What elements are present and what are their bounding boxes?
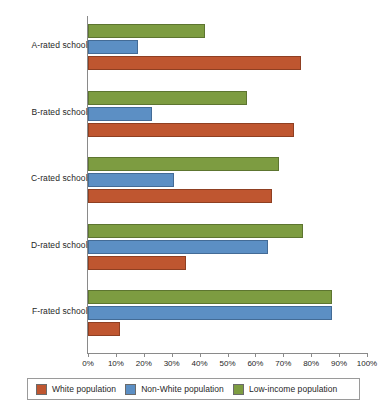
x-tick-mark xyxy=(283,353,284,357)
category-label-a: A-rated schools xyxy=(4,40,92,50)
category-label-f: F-rated schools xyxy=(4,306,92,316)
legend-item: Low-income population xyxy=(233,384,337,395)
bar-red xyxy=(88,189,272,203)
x-tick-mark xyxy=(255,353,256,357)
x-tick-mark xyxy=(172,353,173,357)
legend-item: White population xyxy=(36,384,116,395)
x-tick-mark xyxy=(367,353,368,357)
bar-red xyxy=(88,123,294,137)
bar-red xyxy=(88,256,186,270)
bar-green xyxy=(88,224,303,238)
legend-swatch-icon xyxy=(233,384,244,395)
bar-blue xyxy=(88,107,152,121)
x-tick-mark xyxy=(116,353,117,357)
bar-green xyxy=(88,290,332,304)
x-tick-mark xyxy=(311,353,312,357)
x-tick-mark xyxy=(88,353,89,357)
x-tick-mark xyxy=(339,353,340,357)
bar-blue xyxy=(88,40,138,54)
bar-chart: A-rated schoolsB-rated schoolsC-rated sc… xyxy=(0,0,387,412)
bar-group xyxy=(88,157,367,205)
bar-green xyxy=(88,157,279,171)
bar-green xyxy=(88,91,247,105)
bar-group xyxy=(88,91,367,139)
bar-group xyxy=(88,290,367,338)
bar-blue xyxy=(88,306,332,320)
bar-blue xyxy=(88,240,268,254)
bar-red xyxy=(88,322,120,336)
category-label-d: D-rated schools xyxy=(4,240,92,250)
bar-red xyxy=(88,56,301,70)
chart-legend: White populationNon-White populationLow-… xyxy=(27,378,360,400)
legend-swatch-icon xyxy=(36,384,47,395)
x-tick-label: 100% xyxy=(347,359,387,368)
category-label-c: C-rated schools xyxy=(4,173,92,183)
legend-label: Low-income population xyxy=(249,384,337,394)
bar-blue xyxy=(88,173,174,187)
bar-green xyxy=(88,24,205,38)
legend-label: Non-White population xyxy=(141,384,224,394)
x-tick-mark xyxy=(200,353,201,357)
bar-group xyxy=(88,24,367,72)
legend-item: Non-White population xyxy=(125,384,224,395)
legend-label: White population xyxy=(52,384,116,394)
legend-swatch-icon xyxy=(125,384,136,395)
x-tick-mark xyxy=(228,353,229,357)
bar-group xyxy=(88,224,367,272)
category-label-b: B-rated schools xyxy=(4,107,92,117)
x-tick-mark xyxy=(144,353,145,357)
